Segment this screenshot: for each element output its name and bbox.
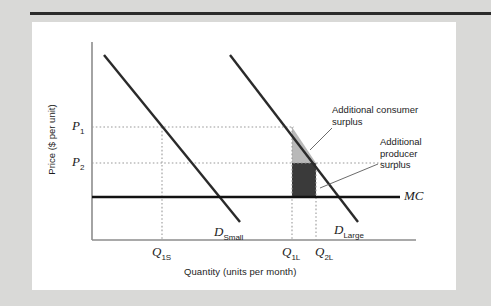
annotation-producer-surplus-line1: Additional (380, 136, 422, 148)
y-axis-title: Price ($ per unit) (46, 95, 57, 185)
quantity-label-q1l-sub: 1L (291, 253, 300, 262)
x-axis-title: Quantity (units per month) (184, 266, 296, 277)
quantity-label-q1l-base: Q (282, 244, 291, 259)
price-label-p1: P1 (72, 118, 84, 136)
quantity-label-q1s: Q1S (152, 244, 171, 262)
marginal-cost-label: MC (404, 188, 424, 204)
price-label-p2-sub: 2 (80, 163, 84, 172)
annotation-consumer-surplus-line2: surplus (332, 116, 418, 128)
price-label-p2-base: P (72, 154, 80, 169)
economics-supply-demand-figure: Price ($ per unit) P1 P2 Q1S Q1L Q2L DSm… (32, 22, 456, 290)
annotation-producer-surplus-line2: producer (380, 148, 422, 160)
demand-curve-small-label-sub: Small (223, 233, 243, 242)
demand-curve-large-label: DLarge (334, 222, 364, 240)
demand-curve-large-label-sub: Large (343, 231, 363, 240)
demand-curve-small-label: DSmall (214, 224, 243, 242)
figure-card: Price ($ per unit) P1 P2 Q1S Q1L Q2L DSm… (32, 22, 456, 290)
demand-curve-large-label-base: D (334, 222, 343, 237)
quantity-label-q1s-sub: 1S (161, 253, 171, 262)
leader-line-producer-surplus (320, 164, 378, 188)
annotation-producer-surplus-line3: surplus (380, 159, 422, 171)
annotation-additional-consumer-surplus: Additional consumer surplus (332, 104, 418, 127)
price-label-p1-sub: 1 (80, 127, 84, 136)
top-rule-divider (30, 12, 491, 15)
quantity-label-q1s-base: Q (152, 244, 161, 259)
price-label-p1-base: P (72, 118, 80, 133)
price-label-p2: P2 (72, 154, 84, 172)
consumer-surplus-region (292, 127, 316, 163)
quantity-label-q1l: Q1L (282, 244, 300, 262)
leader-line-consumer-surplus (310, 128, 332, 150)
producer-surplus-region (292, 163, 316, 197)
annotation-additional-producer-surplus: Additional producer surplus (380, 136, 422, 171)
quantity-label-q2l-sub: 2L (324, 253, 333, 262)
quantity-label-q2l-base: Q (315, 244, 324, 259)
quantity-label-q2l: Q2L (315, 244, 333, 262)
page-background: Price ($ per unit) P1 P2 Q1S Q1L Q2L DSm… (0, 0, 491, 306)
annotation-consumer-surplus-line1: Additional consumer (332, 104, 418, 116)
demand-curve-small-label-base: D (214, 224, 223, 239)
